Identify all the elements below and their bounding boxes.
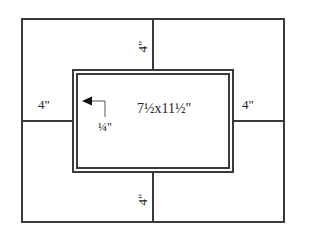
reveal-label: ¼" [98, 121, 112, 133]
bottom-divider [152, 171, 154, 222]
left-divider [22, 120, 74, 122]
opening-size-label: 7½x11½" [137, 102, 191, 116]
left-border-label: 4" [38, 98, 50, 111]
top-divider [152, 19, 154, 71]
bottom-border-label: 4" [136, 193, 149, 207]
right-border-label: 4" [242, 98, 254, 111]
top-border-label: 4" [136, 40, 149, 54]
right-divider [232, 120, 284, 122]
